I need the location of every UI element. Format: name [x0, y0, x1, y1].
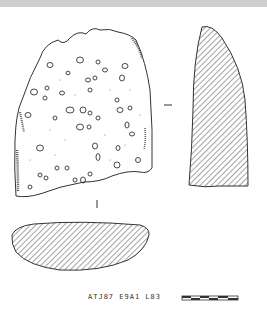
plan-section: [12, 222, 149, 270]
sherd-face: [15, 29, 153, 197]
drawing-canvas: [0, 0, 267, 314]
catalog-label: ATJ87 E9A1 L83: [88, 293, 161, 301]
scale-bar: [182, 296, 238, 300]
profile-section: [189, 26, 248, 186]
